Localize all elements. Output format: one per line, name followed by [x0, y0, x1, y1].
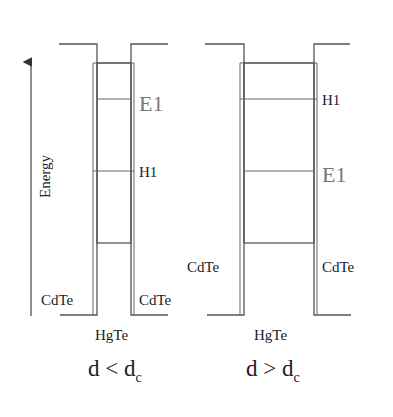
left-level-h1-label: H1	[139, 164, 157, 180]
right-barrier-left-label: CdTe	[187, 259, 220, 275]
left-outer-box	[93, 63, 134, 315]
energy-axis-label: Energy	[37, 154, 53, 198]
left-condition: d < dc	[88, 356, 142, 385]
right-inner-box	[244, 63, 314, 243]
right-level-e1-label: E1	[322, 162, 346, 187]
right-barrier-right-label: CdTe	[322, 259, 355, 275]
energy-axis: Energy	[31, 62, 53, 316]
left-barrier-left-edge	[59, 44, 97, 315]
panel-left: E1 H1 CdTe CdTe HgTe d < dc	[41, 44, 172, 385]
right-condition: d > dc	[246, 356, 300, 385]
right-level-h1-label: H1	[322, 92, 340, 108]
left-level-e1-label: E1	[139, 91, 163, 116]
left-barrier-right-label: CdTe	[139, 292, 172, 308]
right-outer-box	[240, 63, 317, 315]
left-barrier-left-label: CdTe	[41, 292, 74, 308]
right-well-label: HgTe	[254, 327, 287, 343]
left-well-label: HgTe	[95, 327, 128, 343]
panel-right: H1 E1 CdTe CdTe HgTe d > dc	[187, 44, 355, 385]
left-inner-box	[97, 63, 131, 243]
quantum-well-diagram: Energy E1 H1 CdTe CdTe HgTe d < dc H1 E1…	[0, 0, 393, 417]
